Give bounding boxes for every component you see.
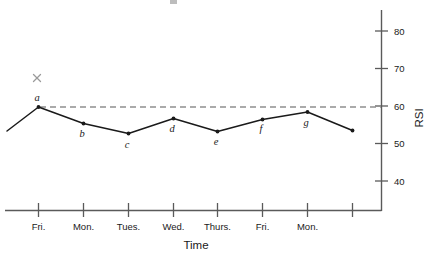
- y-tick-label-60: 60: [394, 101, 405, 112]
- x-axis-title: Time: [183, 239, 208, 251]
- x-tick-label-5: Thurs.: [204, 221, 231, 232]
- y-tick-label-50: 50: [394, 138, 405, 149]
- data-point-label-c: c: [125, 139, 130, 150]
- data-point-f[interactable]: [261, 118, 265, 122]
- y-tick-label-80: 80: [394, 26, 405, 37]
- data-point-label-g: g: [303, 117, 308, 128]
- x-tick-label-3: Tues.: [117, 221, 140, 232]
- data-point-b[interactable]: [82, 122, 86, 126]
- chart-canvas: 80 70 60 50 40 RSI Fri. Mon. Tues. Wed. …: [0, 0, 430, 254]
- x-tick-label-6: Fri.: [256, 221, 270, 232]
- data-point-d[interactable]: [172, 117, 176, 121]
- data-point-label-d: d: [169, 123, 175, 134]
- x-tick-label-4: Wed.: [162, 221, 184, 232]
- data-point-label-e: e: [214, 136, 219, 147]
- cursor-x-icon: [34, 75, 41, 82]
- data-point-label-a: a: [34, 92, 39, 103]
- data-point-e[interactable]: [216, 130, 220, 134]
- rsi-line-chart: 80 70 60 50 40 RSI Fri. Mon. Tues. Wed. …: [0, 0, 430, 254]
- data-point-label-f: f: [260, 123, 265, 134]
- data-point-label-b: b: [79, 128, 84, 139]
- data-point-c[interactable]: [127, 132, 131, 136]
- y-axis-title: RSI: [413, 108, 425, 127]
- y-tick-label-40: 40: [394, 176, 405, 187]
- data-point-last[interactable]: [351, 129, 355, 133]
- y-tick-label-70: 70: [394, 63, 405, 74]
- rsi-series-line: [7, 107, 353, 134]
- x-tick-label-2: Mon.: [73, 221, 94, 232]
- x-tick-label-7: Mon.: [297, 221, 318, 232]
- cropped-title-artifact: [170, 0, 177, 4]
- x-tick-label-1: Fri.: [32, 221, 46, 232]
- data-point-a[interactable]: [37, 105, 41, 109]
- data-point-g[interactable]: [306, 110, 310, 114]
